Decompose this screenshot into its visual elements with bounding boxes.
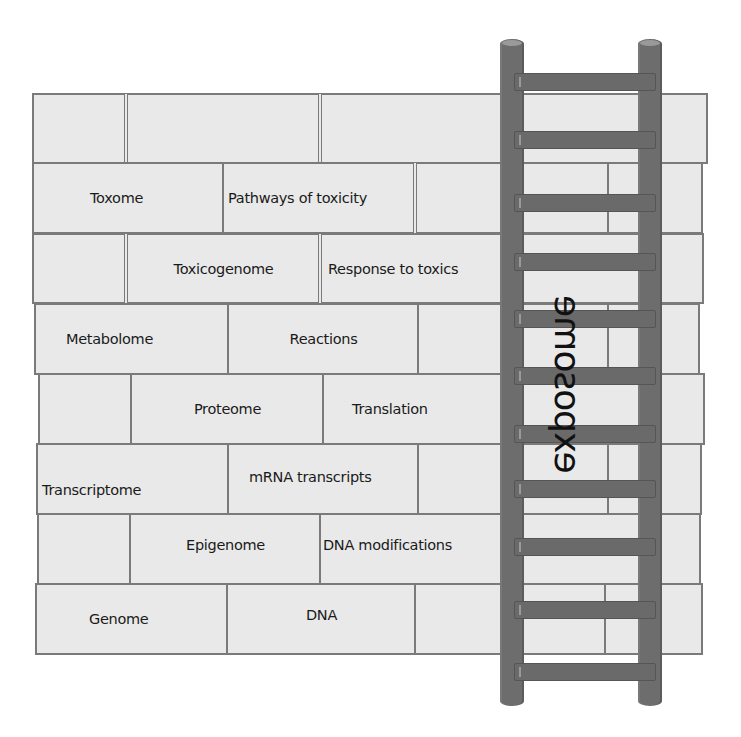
ladder-rung [514, 538, 656, 556]
ome-label: Toxicogenome [174, 261, 274, 277]
ome-label: Proteome [194, 401, 261, 417]
ladder-rung [514, 601, 656, 619]
brick-process-pathways-of-toxicity: Pathways of toxicity [222, 162, 415, 234]
ome-label: Genome [89, 611, 148, 627]
ome-label: Epigenome [186, 537, 265, 553]
brick-ome-toxome: Toxome [32, 162, 225, 234]
process-label: Translation [352, 401, 428, 417]
process-label: Pathways of toxicity [228, 190, 367, 206]
brick [38, 373, 134, 445]
brick [32, 93, 126, 164]
ladder-label-exposome: exposome [548, 310, 588, 460]
brick-ome-toxicogenome: Toxicogenome [124, 233, 321, 304]
ladder-rung [514, 194, 656, 212]
brick [32, 233, 128, 304]
ladder-rung [514, 253, 656, 271]
ome-label: Transcriptome [42, 482, 141, 498]
ladder-rung [514, 131, 656, 149]
brick [124, 93, 321, 164]
ladder-right-rail-cap [640, 40, 660, 46]
ome-label: Metabolome [66, 331, 153, 347]
ladder-rung [514, 480, 656, 498]
process-label: mRNA transcripts [249, 469, 371, 485]
process-label: Response to toxics [328, 261, 458, 277]
ladder-left-rail-cap [502, 40, 522, 46]
brick [37, 513, 132, 585]
process-label: DNA [306, 607, 337, 623]
process-label: DNA modifications [323, 537, 452, 553]
brick-ome-transcriptome: Transcriptome [36, 443, 230, 515]
ome-label: Toxome [90, 190, 143, 206]
brick-ome-proteome: Proteome [130, 373, 325, 445]
ladder-rung [514, 663, 656, 681]
brick-ome-metabolome: Metabolome [34, 303, 231, 375]
brick-ome-genome: Genome [35, 583, 229, 655]
process-label: Reactions [290, 331, 358, 347]
brick-ome-epigenome: Epigenome [129, 513, 322, 585]
brick-process-reactions: Reactions [227, 303, 420, 375]
brick-process-dna: DNA [226, 583, 417, 655]
brick-process-mrna-transcripts: mRNA transcripts [227, 443, 420, 515]
ladder-rung [514, 73, 656, 91]
